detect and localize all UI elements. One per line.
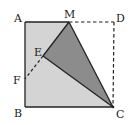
label-d: D xyxy=(116,12,125,25)
segment-dc-dashed xyxy=(113,22,114,107)
label-c: C xyxy=(116,108,124,121)
label-b: B xyxy=(14,107,22,120)
vertex-c-dot xyxy=(112,106,115,109)
label-m: M xyxy=(64,8,75,21)
label-e: E xyxy=(34,46,42,59)
label-a: A xyxy=(13,12,23,25)
geometry-diagram: A M D E F B C xyxy=(0,0,133,125)
label-f: F xyxy=(13,74,21,87)
